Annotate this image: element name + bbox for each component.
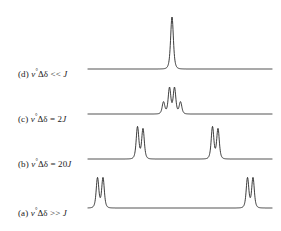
symbol-delta-delta: Δδ [37, 114, 47, 124]
trace-label-prefix: (b) [18, 159, 31, 169]
symbol-delta-delta: Δδ [37, 208, 47, 218]
trace-label-c: (c) ν°Δδ = 2J [18, 113, 66, 124]
spectrum-trace-d [88, 17, 272, 69]
symbol-j: J [63, 69, 67, 79]
trace-label-relation: >> J [48, 208, 67, 218]
trace-label-relation: = 20J [48, 159, 71, 169]
symbol-j: J [67, 159, 71, 169]
trace-label-b: (b) ν°Δδ = 20J [18, 158, 71, 169]
trace-label-a: (a) ν°Δδ >> J [18, 207, 67, 218]
trace-label-d: (d) ν°Δδ << J [18, 68, 67, 79]
trace-label-relation: = 2J [48, 114, 67, 124]
spectrum-trace-b [88, 126, 272, 159]
symbol-delta-delta: Δδ [38, 69, 48, 79]
nmr-spectra-figure: (d) ν°Δδ << J (c) ν°Δδ = 2J (b) ν°Δδ = 2… [0, 0, 281, 231]
trace-label-prefix: (c) [18, 114, 31, 124]
trace-label-prefix: (a) [18, 208, 31, 218]
trace-label-prefix: (d) [18, 69, 31, 79]
symbol-delta-delta: Δδ [38, 159, 48, 169]
trace-label-relation: << J [48, 69, 67, 79]
symbol-j: J [62, 114, 66, 124]
symbol-j: J [63, 208, 67, 218]
spectrum-trace-c [88, 87, 272, 114]
spectrum-trace-a [88, 177, 272, 208]
